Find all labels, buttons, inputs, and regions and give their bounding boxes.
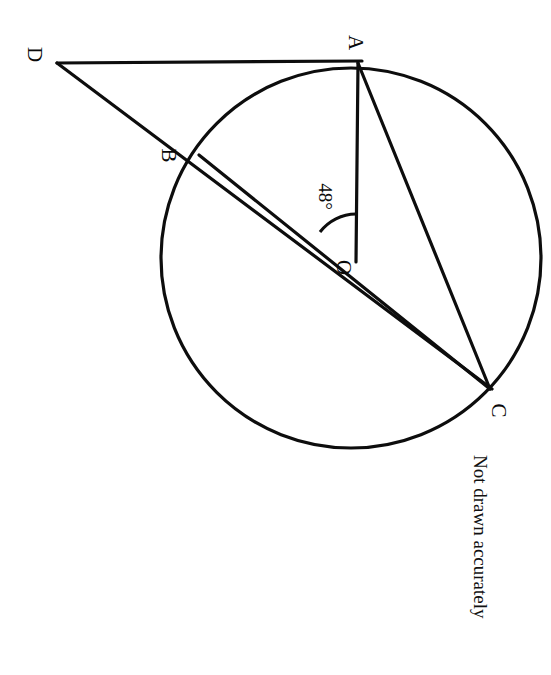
geometry-diagram: A B C D O 48° Not drawn accurately [0, 0, 551, 675]
segment-ao [356, 63, 358, 262]
circle-shape [161, 68, 541, 448]
vertex-label-c: C [488, 403, 509, 417]
vertex-label-a: A [345, 35, 366, 50]
not-drawn-accurately-note: Not drawn accurately [471, 455, 490, 619]
geometry-canvas [0, 0, 551, 675]
vertex-label-o: O [333, 260, 354, 275]
segment-da [57, 61, 362, 63]
angle-arc-48 [320, 214, 356, 232]
vertex-label-d: D [24, 47, 45, 62]
vertex-label-b: B [158, 148, 179, 162]
angle-measure-label: 48° [316, 183, 335, 210]
